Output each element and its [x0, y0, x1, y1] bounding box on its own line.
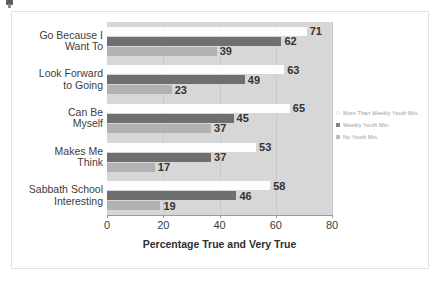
chart-legend: More Than Weekly Youth Min.Weekly Youth …: [336, 108, 428, 144]
plot-area: 716239634923654537533717584619: [107, 22, 332, 215]
category-label-line: Want To: [65, 41, 103, 53]
bar-groups: 716239634923654537533717584619: [107, 22, 332, 215]
category-label: Go Because IWant To: [14, 22, 106, 61]
x-axis-title: Percentage True and Very True: [107, 238, 332, 250]
bar-row: 65: [107, 104, 332, 113]
bar-value-label: 53: [256, 141, 271, 153]
bar-row: 23: [107, 85, 332, 94]
x-tick: [163, 215, 164, 218]
gridline: [332, 22, 333, 215]
bar-row: 46: [107, 191, 332, 200]
bar: [107, 85, 172, 94]
bar-group: 654537: [107, 99, 332, 138]
bar-value-label: 63: [284, 64, 299, 76]
bar-value-label: 37: [211, 151, 226, 163]
bar-value-label: 17: [155, 161, 170, 173]
legend-item[interactable]: Weekly Youth Min.: [336, 120, 428, 130]
bar-row: 63: [107, 65, 332, 74]
legend-item[interactable]: No Youth Min.: [336, 132, 428, 142]
bar-group: 634923: [107, 61, 332, 100]
bar: [107, 124, 211, 133]
x-tick: [332, 215, 333, 218]
x-tick: [276, 215, 277, 218]
scan-artifact-tail: [8, 4, 11, 8]
bar-row: 17: [107, 163, 332, 172]
bar-value-label: 58: [270, 180, 285, 192]
bar: [107, 143, 256, 152]
x-tick: [107, 215, 108, 218]
category-label-line: Myself: [73, 118, 103, 130]
legend-swatch-icon: [336, 123, 340, 127]
bar-value-label: 49: [245, 74, 260, 86]
bar-row: 58: [107, 181, 332, 190]
bar-group: 716239: [107, 22, 332, 61]
bar-row: 71: [107, 27, 332, 36]
category-label: Look Forwardto Going: [14, 61, 106, 100]
bar-value-label: 65: [290, 102, 305, 114]
category-label-line: Think: [77, 157, 103, 169]
legend-swatch-icon: [336, 111, 340, 115]
bar: [107, 27, 307, 36]
category-label-line: to Going: [63, 80, 103, 92]
grouped-bar-chart: Go Because IWant ToLook Forwardto GoingC…: [12, 12, 430, 270]
x-tick-label: 60: [270, 219, 282, 231]
bar-row: 19: [107, 201, 332, 210]
bar: [107, 37, 281, 46]
bar-value-label: 71: [307, 25, 322, 37]
category-label: Can BeMyself: [14, 99, 106, 138]
bar: [107, 47, 217, 56]
bar-value-label: 37: [211, 122, 226, 134]
bar-value-label: 39: [217, 45, 232, 57]
bar-value-label: 23: [172, 84, 187, 96]
legend-swatch-icon: [336, 135, 340, 139]
legend-item[interactable]: More Than Weekly Youth Min.: [336, 108, 428, 118]
bar: [107, 201, 160, 210]
category-label-line: Sabbath School: [29, 184, 103, 196]
bar: [107, 163, 155, 172]
bar-group: 584619: [107, 176, 332, 215]
bar-row: 39: [107, 47, 332, 56]
x-tick-label: 80: [326, 219, 338, 231]
category-axis: Go Because IWant ToLook Forwardto GoingC…: [14, 22, 106, 215]
x-tick-label: 40: [213, 219, 225, 231]
bar: [107, 104, 290, 113]
bar-value-label: 62: [281, 35, 296, 47]
category-label: Sabbath SchoolInteresting: [14, 176, 106, 215]
figure-frame: Go Because IWant ToLook Forwardto GoingC…: [11, 11, 429, 269]
bar-group: 533717: [107, 138, 332, 177]
bar-value-label: 19: [160, 200, 175, 212]
bar-value-label: 46: [236, 190, 251, 202]
legend-label: More Than Weekly Youth Min.: [343, 110, 419, 116]
bar-row: 37: [107, 153, 332, 162]
bar-row: 49: [107, 75, 332, 84]
x-tick-label: 20: [157, 219, 169, 231]
bar-value-label: 45: [234, 112, 249, 124]
category-label: Makes MeThink: [14, 138, 106, 177]
x-tick-label: 0: [104, 219, 110, 231]
bar-row: 37: [107, 124, 332, 133]
legend-label: No Youth Min.: [343, 134, 379, 140]
legend-label: Weekly Youth Min.: [343, 122, 390, 128]
x-tick: [220, 215, 221, 218]
category-label-line: Interesting: [54, 196, 103, 208]
